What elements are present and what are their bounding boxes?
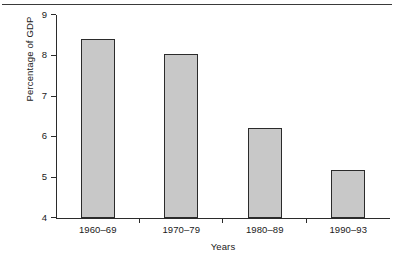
- y-axis-tick-label: 7: [27, 90, 47, 101]
- y-axis-tick: [51, 96, 56, 97]
- bar: [164, 54, 198, 218]
- bar-chart-figure: Percentage of GDP 456789 1960–691970–791…: [0, 0, 395, 259]
- x-axis-tick-label: 1980–89: [223, 224, 307, 235]
- bar: [81, 39, 115, 218]
- y-axis-tick-label: 9: [27, 9, 47, 20]
- bar: [248, 128, 282, 218]
- y-axis-tick-label: 6: [27, 130, 47, 141]
- x-axis-tick-label: 1960–69: [56, 224, 140, 235]
- y-axis-title: Percentage of GDP: [23, 0, 37, 139]
- bar: [331, 170, 365, 218]
- x-axis-tick: [222, 218, 223, 223]
- y-axis-tick: [51, 55, 56, 56]
- y-axis-tick-label: 8: [27, 49, 47, 60]
- y-axis-line: [56, 15, 57, 219]
- y-axis-tick: [51, 136, 56, 137]
- x-axis-tick-label: 1990–93: [307, 224, 391, 235]
- y-axis-tick: [51, 177, 56, 178]
- x-axis-tick: [306, 218, 307, 223]
- y-axis-tick: [51, 217, 56, 218]
- y-axis-tick: [51, 14, 56, 15]
- top-divider-rule: [2, 4, 392, 5]
- x-axis-tick-label: 1970–79: [140, 224, 224, 235]
- x-axis-tick: [139, 218, 140, 223]
- y-axis-tick-label: 4: [27, 212, 47, 223]
- x-axis-title: Years: [56, 241, 390, 252]
- y-axis-tick-label: 5: [27, 171, 47, 182]
